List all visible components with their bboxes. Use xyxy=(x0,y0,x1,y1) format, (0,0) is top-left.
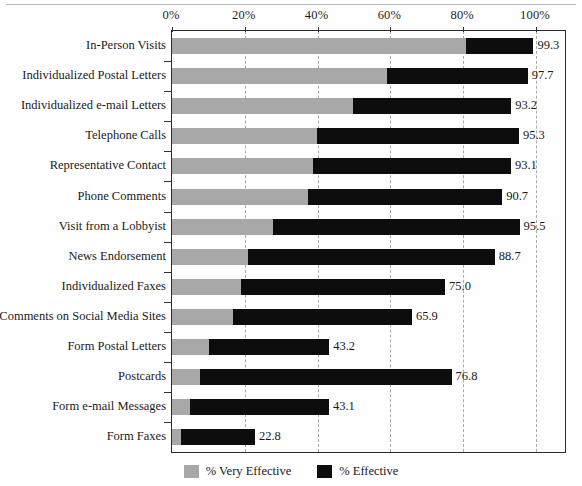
x-axis-tick-mark xyxy=(463,27,464,32)
category-label: News Endorsement xyxy=(0,247,166,266)
x-axis-tick-label: 0% xyxy=(162,8,179,23)
y-axis-tick-mark xyxy=(164,422,172,423)
x-axis-tick-label: 40% xyxy=(305,8,329,23)
y-axis-tick-mark xyxy=(164,181,172,182)
bar-segment-effective xyxy=(181,429,255,445)
bar-segment-effective xyxy=(317,128,519,144)
bar-value-label: 75.0 xyxy=(449,277,471,296)
stacked-bar xyxy=(172,249,495,265)
bar-row: Individualized Postal Letters97.7 xyxy=(0,68,582,84)
y-axis-tick-mark xyxy=(164,362,172,363)
stacked-bar xyxy=(172,98,511,114)
x-axis-tick-mark xyxy=(390,27,391,32)
x-axis-tick-label: 100% xyxy=(520,8,550,23)
bar-segment-very-effective xyxy=(172,399,190,415)
bar-row: Visit from a Lobbyist95.5 xyxy=(0,219,582,235)
y-axis-tick-mark xyxy=(164,151,172,152)
gridline xyxy=(245,31,246,452)
legend-swatch-icon xyxy=(184,465,199,478)
bar-value-label: 99.3 xyxy=(537,36,559,55)
category-label: Comments on Social Media Sites xyxy=(0,307,166,326)
y-axis-tick-mark xyxy=(164,212,172,213)
stacked-bar xyxy=(172,279,445,295)
legend-label: % Very Effective xyxy=(206,464,292,479)
bar-segment-effective xyxy=(353,98,511,114)
bar-segment-effective xyxy=(313,158,511,174)
bar-value-label: 43.2 xyxy=(333,337,355,356)
bar-segment-very-effective xyxy=(172,68,387,84)
gridline xyxy=(390,31,391,452)
x-axis-tick-label: 60% xyxy=(378,8,402,23)
bar-segment-effective xyxy=(466,38,533,54)
chart-legend: % Very Effective% Effective xyxy=(0,462,582,480)
bar-segment-very-effective xyxy=(172,339,209,355)
gridline xyxy=(536,31,537,452)
bar-segment-effective xyxy=(273,219,520,235)
bar-segment-very-effective xyxy=(172,369,200,385)
y-axis-tick-mark xyxy=(164,61,172,62)
category-label: Form Faxes xyxy=(0,427,166,446)
x-axis-tick-mark xyxy=(245,27,246,32)
bar-value-label: 22.8 xyxy=(259,427,281,446)
x-axis-tick-label: 80% xyxy=(450,8,474,23)
category-label: Individualized Faxes xyxy=(0,277,166,296)
bar-segment-very-effective xyxy=(172,279,241,295)
page-top-rule xyxy=(6,4,576,5)
bar-segment-very-effective xyxy=(172,219,273,235)
bar-row: Form e-mail Messages43.1 xyxy=(0,399,582,415)
bar-row: Comments on Social Media Sites65.9 xyxy=(0,309,582,325)
category-label: Postcards xyxy=(0,367,166,386)
bar-segment-very-effective xyxy=(172,309,233,325)
bar-value-label: 95.5 xyxy=(524,217,546,236)
gridline xyxy=(318,31,319,452)
stacked-bar xyxy=(172,369,452,385)
stacked-bar xyxy=(172,189,502,205)
plot-area xyxy=(171,30,566,453)
y-axis-tick-mark xyxy=(164,121,172,122)
legend-item: % Effective xyxy=(317,464,398,479)
category-label: Individualized Postal Letters xyxy=(0,66,166,85)
x-axis-tick-mark xyxy=(536,27,537,32)
stacked-bar xyxy=(172,399,329,415)
legend-item: % Very Effective xyxy=(184,464,292,479)
category-label: Representative Contact xyxy=(0,156,166,175)
stacked-bar xyxy=(172,158,511,174)
bar-row: Individualized Faxes75.0 xyxy=(0,279,582,295)
stacked-bar-chart: 0%20%40%60%80%100% In-Person Visits99.3I… xyxy=(0,0,582,486)
category-label: Visit from a Lobbyist xyxy=(0,217,166,236)
stacked-bar xyxy=(172,219,520,235)
bar-segment-effective xyxy=(233,309,412,325)
stacked-bar xyxy=(172,309,412,325)
category-label: Phone Comments xyxy=(0,187,166,206)
bar-segment-very-effective xyxy=(172,429,181,445)
y-axis-tick-mark xyxy=(164,91,172,92)
x-axis-tick-label: 20% xyxy=(232,8,256,23)
stacked-bar xyxy=(172,429,255,445)
bar-segment-very-effective xyxy=(172,189,308,205)
category-label: Form Postal Letters xyxy=(0,337,166,356)
stacked-bar xyxy=(172,128,519,144)
bar-segment-very-effective xyxy=(172,128,317,144)
bar-value-label: 65.9 xyxy=(416,307,438,326)
stacked-bar xyxy=(172,68,528,84)
legend-swatch-icon xyxy=(317,465,332,478)
bar-value-label: 97.7 xyxy=(532,66,554,85)
x-axis-tick-labels: 0%20%40%60%80%100% xyxy=(0,8,582,24)
bar-value-label: 93.2 xyxy=(515,96,537,115)
bar-segment-effective xyxy=(200,369,452,385)
bar-segment-effective xyxy=(387,68,528,84)
y-axis-tick-mark xyxy=(164,272,172,273)
bar-segment-very-effective xyxy=(172,249,248,265)
bar-row: In-Person Visits99.3 xyxy=(0,38,582,54)
stacked-bar xyxy=(172,339,329,355)
bar-segment-very-effective xyxy=(172,38,466,54)
bar-row: Telephone Calls95.3 xyxy=(0,128,582,144)
bar-segment-effective xyxy=(248,249,495,265)
gridline xyxy=(463,31,464,452)
y-axis-tick-mark xyxy=(164,302,172,303)
bar-segment-effective xyxy=(209,339,329,355)
bar-value-label: 93.1 xyxy=(515,156,537,175)
bar-segment-very-effective xyxy=(172,158,313,174)
y-axis-tick-mark xyxy=(164,242,172,243)
bar-row: Form Faxes22.8 xyxy=(0,429,582,445)
